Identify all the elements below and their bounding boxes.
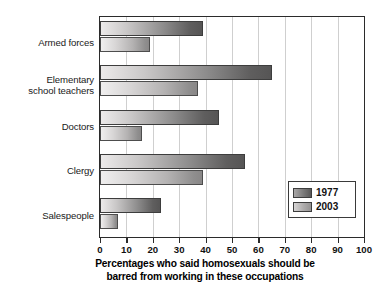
x-tick-label-10: 10 [121,244,132,256]
x-tick-30 [179,238,180,243]
legend-item-2003: 2003 [293,200,352,213]
bar-clergy-2003 [100,170,203,185]
x-tick-label-20: 20 [147,244,158,256]
x-tick-70 [285,238,286,243]
legend-item-1977: 1977 [293,186,352,199]
x-tick-label-80: 80 [306,244,317,256]
caption-line-1: Percentages who said homosexuals should … [60,258,350,271]
x-tick-label-0: 0 [97,244,102,256]
gridline-40 [206,17,207,237]
legend-swatch-1977 [293,188,312,198]
bar-salespeople-1977 [100,198,161,213]
category-axis-labels: Armed forces Elementary school teachers … [0,16,94,238]
x-tick-10 [126,238,127,243]
bar-elementary-school-teachers-2003 [100,81,198,96]
x-tick-60 [258,238,259,243]
legend-label-1977: 1977 [316,187,338,198]
x-tick-label-50: 50 [227,244,238,256]
category-label-doctors: Doctors [0,121,94,133]
x-tick-40 [206,238,207,243]
chart-legend: 1977 2003 [288,181,356,218]
x-tick-100 [364,238,365,243]
gridline-60 [258,17,259,237]
bar-elementary-school-teachers-1977 [100,65,272,80]
x-tick-label-60: 60 [253,244,264,256]
bar-armed-forces-1977 [100,21,203,36]
gridline-30 [179,17,180,237]
category-label-salespeople: Salespeople [0,210,94,222]
x-tick-label-30: 30 [174,244,185,256]
legend-swatch-2003 [293,202,312,212]
bar-salespeople-2003 [100,214,118,229]
category-label-elementary-line1: Elementary [0,74,94,86]
x-tick-0 [100,238,101,243]
x-tick-label-100: 100 [356,244,372,256]
x-tick-20 [153,238,154,243]
x-tick-50 [232,238,233,243]
x-axis-caption: Percentages who said homosexuals should … [60,258,350,283]
x-tick-90 [338,238,339,243]
gridline-50 [232,17,233,237]
x-tick-label-70: 70 [279,244,290,256]
bar-doctors-1977 [100,110,219,125]
x-tick-label-90: 90 [332,244,343,256]
bar-chart-figure: Armed forces Elementary school teachers … [0,0,388,293]
caption-line-2: barred from working in these occupations [60,271,350,284]
bar-clergy-1977 [100,154,245,169]
gridline-100 [364,17,365,237]
legend-label-2003: 2003 [316,201,338,212]
x-tick-80 [311,238,312,243]
x-tick-label-40: 40 [200,244,211,256]
category-label-elementary-line2: school teachers [0,85,94,97]
category-label-armed-forces: Armed forces [0,37,94,49]
bar-armed-forces-2003 [100,37,150,52]
bar-doctors-2003 [100,126,142,141]
category-label-clergy: Clergy [0,165,94,177]
gridline-70 [285,17,286,237]
